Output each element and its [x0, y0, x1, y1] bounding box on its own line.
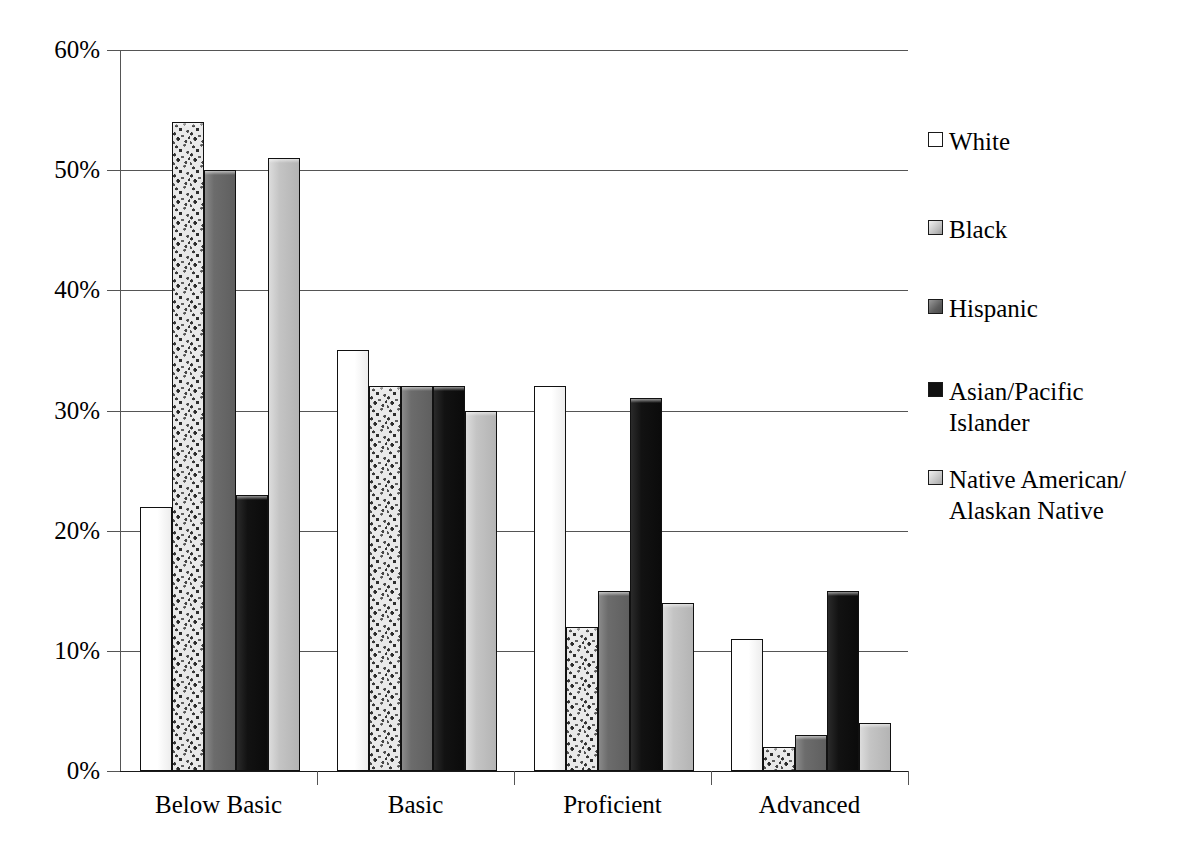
- legend-swatch-icon: [928, 299, 943, 314]
- legend-label: Hispanic: [949, 293, 1038, 324]
- x-axis-tick: [514, 771, 515, 785]
- y-axis-tick: [107, 290, 120, 291]
- bar[interactable]: [401, 386, 433, 771]
- x-axis-label-basic: Basic: [306, 790, 526, 820]
- y-axis-tick-label: 0%: [0, 758, 100, 783]
- bar[interactable]: [827, 591, 859, 771]
- legend-label: Asian/Pacific Islander: [949, 376, 1084, 438]
- bar-group: [337, 50, 497, 771]
- legend-swatch-icon: [928, 382, 943, 397]
- x-axis-label-proficient: Proficient: [503, 790, 723, 820]
- bar[interactable]: [566, 627, 598, 771]
- bar[interactable]: [795, 735, 827, 771]
- x-axis-tick: [317, 771, 318, 785]
- x-axis-label-advanced: Advanced: [700, 790, 920, 820]
- bar[interactable]: [731, 639, 763, 771]
- bar[interactable]: [433, 386, 465, 771]
- y-axis-tick: [107, 531, 120, 532]
- y-axis-tick-label: 10%: [0, 638, 100, 663]
- bar[interactable]: [465, 411, 497, 772]
- bar[interactable]: [236, 495, 268, 771]
- y-axis-tick-labels: 60%50%40%30%20%10%0%: [0, 0, 100, 850]
- legend-item-hispanic[interactable]: Hispanic: [928, 293, 1038, 324]
- bar[interactable]: [598, 591, 630, 771]
- legend-item-native-american[interactable]: Native American/ Alaskan Native: [928, 464, 1126, 526]
- bar-group: [731, 50, 891, 771]
- y-axis-tick: [107, 651, 120, 652]
- bar[interactable]: [859, 723, 891, 771]
- x-axis-label-below-basic: Below Basic: [109, 790, 329, 820]
- y-axis-tick: [107, 170, 120, 171]
- x-axis-category-labels: Below BasicBasicProficientAdvanced: [0, 790, 1188, 830]
- legend-item-white[interactable]: White: [928, 126, 1010, 157]
- bar[interactable]: [369, 386, 401, 771]
- y-axis-tick: [107, 411, 120, 412]
- legend-swatch-icon: [928, 220, 943, 235]
- grouped-bar-chart: 60%50%40%30%20%10%0% Below BasicBasicPro…: [0, 0, 1188, 850]
- bar[interactable]: [662, 603, 694, 771]
- legend-swatch-icon: [928, 470, 943, 485]
- bar[interactable]: [630, 398, 662, 771]
- x-axis-tick: [711, 771, 712, 785]
- y-axis-tick-label: 50%: [0, 157, 100, 182]
- x-axis-tick: [908, 771, 909, 785]
- bar[interactable]: [140, 507, 172, 771]
- y-axis-tick-label: 60%: [0, 37, 100, 62]
- y-axis-tick-label: 40%: [0, 277, 100, 302]
- bar[interactable]: [268, 158, 300, 771]
- y-axis-tick-label: 20%: [0, 518, 100, 543]
- plot-area: [120, 50, 908, 771]
- legend-label: Black: [949, 214, 1007, 245]
- legend-swatch-icon: [928, 132, 943, 147]
- bar[interactable]: [534, 386, 566, 771]
- bar[interactable]: [763, 747, 795, 771]
- legend-item-asian[interactable]: Asian/Pacific Islander: [928, 376, 1084, 438]
- y-axis-tick: [107, 771, 120, 772]
- y-axis-tick: [107, 50, 120, 51]
- y-axis-tick-label: 30%: [0, 398, 100, 423]
- legend-label: White: [949, 126, 1010, 157]
- bar[interactable]: [172, 122, 204, 771]
- bar-group: [534, 50, 694, 771]
- legend-item-black[interactable]: Black: [928, 214, 1007, 245]
- legend-label: Native American/ Alaskan Native: [949, 464, 1126, 526]
- bar-group: [140, 50, 300, 771]
- bar[interactable]: [337, 350, 369, 771]
- bar[interactable]: [204, 170, 236, 771]
